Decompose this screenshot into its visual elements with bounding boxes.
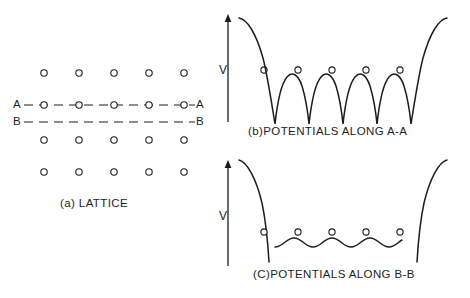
lattice-atom <box>41 102 47 108</box>
lattice-atom <box>146 137 152 143</box>
lattice-atom <box>363 229 369 235</box>
panel-b-potentials-aa <box>225 14 447 124</box>
lattice-atom <box>111 102 117 108</box>
lattice-atom <box>41 169 47 175</box>
potential-curve-aa <box>239 18 447 124</box>
lattice-atom <box>181 137 187 143</box>
potential-ripple-bb <box>275 238 402 247</box>
lattice-atom <box>181 70 187 76</box>
lattice-row-bottom <box>41 169 187 175</box>
lattice-atom <box>295 229 301 235</box>
lattice-atom <box>111 137 117 143</box>
lattice-potentials-figure <box>0 0 470 298</box>
lattice-atom <box>146 102 152 108</box>
lattice-atom <box>181 102 187 108</box>
lattice-atom <box>397 229 403 235</box>
v-axis-label-c: V <box>219 209 227 223</box>
surface-barrier-right-bb <box>417 160 447 262</box>
v-axis-arrowhead-b <box>225 14 232 22</box>
panel-c-caption: (C)POTENTIALS ALONG B-B <box>253 268 415 280</box>
lattice-atom <box>397 67 403 73</box>
panel-b-caption: (b)POTENTIALS ALONG A-A <box>248 125 407 137</box>
panel-b-atom-markers <box>261 67 403 73</box>
lattice-atom <box>146 70 152 76</box>
lattice-atom <box>76 102 82 108</box>
v-axis-arrowhead-c <box>225 160 232 168</box>
lattice-atom <box>76 169 82 175</box>
lattice-atom <box>41 70 47 76</box>
lattice-atom <box>363 67 369 73</box>
panel-c-potentials-bb <box>225 160 447 266</box>
panel-a-caption: (a) LATTICE <box>60 197 128 209</box>
panel-a-lattice <box>24 70 195 175</box>
lattice-atom <box>111 169 117 175</box>
lattice-atom <box>295 67 301 73</box>
lattice-row-top <box>41 70 187 76</box>
lattice-atom <box>261 229 267 235</box>
lattice-atom <box>76 137 82 143</box>
lattice-atom <box>146 169 152 175</box>
lattice-atom <box>329 67 335 73</box>
lattice-atom <box>329 229 335 235</box>
v-axis-label-b: V <box>219 63 227 77</box>
surface-barrier-left-bb <box>239 160 269 262</box>
line-b-label-left: B <box>13 115 21 127</box>
lattice-atom <box>181 169 187 175</box>
line-a-label-left: A <box>13 98 21 110</box>
lattice-atom <box>41 137 47 143</box>
lattice-row-third <box>41 137 187 143</box>
panel-c-atom-markers <box>261 229 403 235</box>
lattice-atom <box>76 70 82 76</box>
lattice-atom <box>111 70 117 76</box>
line-a-label-right: A <box>196 98 204 110</box>
line-b-label-right: B <box>196 115 204 127</box>
